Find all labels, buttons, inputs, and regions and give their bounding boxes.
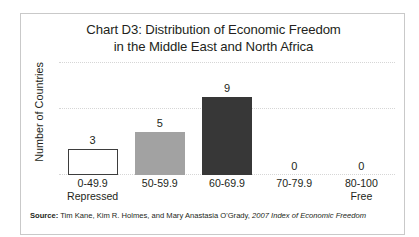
chart-title-line-1: Chart D3: Distribution of Economic Freed…	[21, 21, 406, 38]
x-tick-sublabel: Repressed	[59, 190, 126, 203]
x-axis-tick-labels: 0-49.9 Repressed 50-59.9 60-69.9 70-79.9…	[59, 177, 395, 203]
x-tick-range: 60-69.9	[209, 177, 245, 189]
bar-slot: 3	[59, 62, 126, 175]
x-tick-sublabel: Free	[328, 190, 395, 203]
bar-slot: 5	[126, 62, 193, 175]
x-tick-1: 50-59.9	[126, 177, 193, 203]
chart-title: Chart D3: Distribution of Economic Freed…	[21, 21, 406, 55]
x-tick-0: 0-49.9 Repressed	[59, 177, 126, 203]
y-axis-label: Number of Countries	[33, 47, 45, 177]
source-authors: Tim Kane, Kim R. Holmes, and Mary Anasta…	[58, 211, 252, 220]
x-tick-range: 0-49.9	[78, 177, 108, 189]
x-tick-4: 80-100 Free	[328, 177, 395, 203]
bar-slot: 0	[328, 62, 395, 175]
chart-figure: Chart D3: Distribution of Economic Freed…	[20, 13, 405, 235]
x-tick-range: 80-100	[345, 177, 378, 189]
chart-title-line-2: in the Middle East and North Africa	[21, 38, 406, 55]
x-tick-2: 60-69.9	[193, 177, 260, 203]
source-note: Source: Tim Kane, Kim R. Holmes, and Mar…	[30, 211, 400, 221]
bar-50-59.9	[135, 132, 185, 175]
bar-slot: 9	[193, 62, 260, 175]
bar-slot: 0	[261, 62, 328, 175]
bar-60-69.9	[202, 97, 252, 175]
x-tick-range: 50-59.9	[142, 177, 178, 189]
x-tick-3: 70-79.9	[261, 177, 328, 203]
bar-value-label: 0	[358, 160, 364, 173]
bar-0-49.9	[68, 149, 118, 175]
bar-value-label: 0	[291, 160, 297, 173]
source-lead: Source:	[30, 211, 58, 220]
plot-area: 3 5 9 0 0	[59, 62, 395, 175]
bar-value-label: 9	[224, 82, 230, 95]
x-tick-range: 70-79.9	[276, 177, 312, 189]
bar-value-label: 3	[90, 134, 96, 147]
source-work-title: 2007 Index of Economic Freedom	[252, 211, 366, 220]
bar-series: 3 5 9 0 0	[59, 62, 395, 175]
bar-value-label: 5	[157, 117, 163, 130]
